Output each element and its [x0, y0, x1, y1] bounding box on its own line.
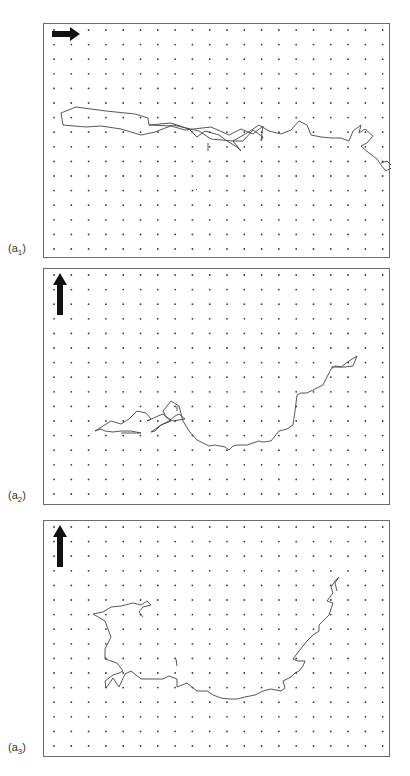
trajectory-fragment [196, 189, 197, 190]
trajectory-path [106, 577, 339, 699]
grid-dots [53, 526, 384, 747]
arrow-up-icon [53, 525, 67, 567]
grid-plot [44, 269, 391, 506]
panel-label-a2: (a2) [8, 489, 26, 504]
arrow-up-icon [53, 273, 67, 315]
panel-a2 [43, 268, 390, 505]
grid-plot [44, 521, 391, 758]
panel-label-a1: (a1) [8, 242, 26, 257]
trajectory-fragment [176, 659, 177, 666]
trajectory-path-secondary [149, 121, 391, 171]
panel-label-a3: (a3) [8, 741, 26, 756]
panel-a3 [43, 520, 390, 757]
panel-a1 [43, 23, 390, 258]
trajectory-path-secondary [95, 429, 141, 433]
grid-dots [53, 274, 384, 495]
trajectory-path-secondary [93, 601, 151, 688]
arrow-right-icon [52, 27, 80, 41]
grid-plot [44, 24, 391, 259]
trajectory-path [95, 356, 357, 450]
